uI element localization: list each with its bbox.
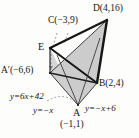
vertex-dot-e: [49, 47, 51, 49]
point-label-a: A: [73, 108, 80, 118]
geometry-figure: D(4,16) C(−3,9) E A′(−6,6) B(2,4) y=6x+4…: [0, 0, 139, 138]
point-label-aprime: A′(−6,6): [1, 66, 34, 76]
shaded-region-main: [50, 20, 107, 105]
vertex-dot-aprime: [49, 72, 51, 74]
point-label-c: C(−3,9): [48, 16, 78, 26]
equation-label-line1: y=6x+42: [10, 92, 44, 101]
vertex-dot-d: [106, 19, 108, 21]
vertex-dot-a: [77, 104, 79, 106]
equation-label-line3: y=−x+6: [85, 104, 116, 113]
point-coords-a: (−1,1): [60, 120, 84, 130]
vertex-dot-b: [96, 82, 98, 84]
equation-label-line2: y=−x: [33, 106, 53, 115]
point-label-d: D(4,16): [93, 4, 123, 14]
point-label-b: B(2,4): [99, 79, 124, 89]
leader-arc-line1: [47, 97, 74, 102]
point-label-e: E: [38, 42, 44, 52]
